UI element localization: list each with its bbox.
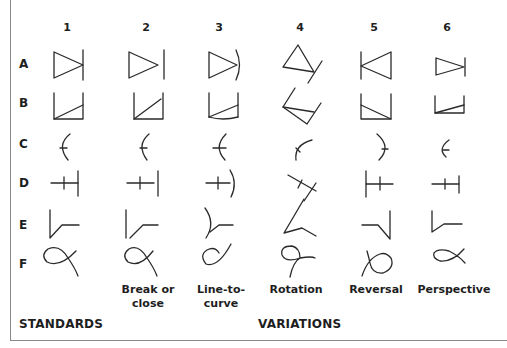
shape-d3 [206, 170, 234, 197]
shape-f4 [282, 246, 315, 277]
shape-f2 [125, 248, 157, 276]
shape-a6 [436, 58, 465, 76]
shape-f1 [44, 248, 78, 276]
shape-b1 [54, 93, 83, 119]
shape-a5 [361, 52, 391, 79]
shape-b5 [361, 94, 391, 119]
shape-e5 [362, 211, 390, 239]
shape-f5 [362, 251, 392, 276]
shape-a3 [209, 50, 240, 80]
shape-c3 [213, 134, 226, 160]
shape-c5 [377, 134, 388, 160]
shape-d1 [51, 171, 78, 196]
shape-e4 [284, 199, 316, 236]
shape-c2 [140, 134, 149, 160]
shape-e2 [126, 210, 158, 238]
shape-e6 [432, 211, 462, 232]
shape-d2 [127, 171, 158, 196]
shape-e1 [50, 210, 79, 238]
shape-b2 [134, 93, 163, 119]
shape-b4 [283, 88, 321, 124]
shape-b6 [435, 96, 464, 113]
shape-f3 [203, 244, 231, 265]
caption-reversal: Reversal [331, 283, 421, 297]
variations-label: VARIATIONS [258, 317, 341, 331]
shape-a1 [54, 50, 83, 80]
shape-d5 [366, 171, 393, 197]
standards-label: STANDARDS [19, 317, 103, 331]
shape-c1 [60, 134, 70, 160]
shape-e3 [205, 208, 233, 238]
shape-b3 [209, 93, 238, 119]
caption-rotation: Rotation [251, 283, 341, 297]
shape-f6 [434, 249, 465, 263]
shape-c6 [442, 140, 449, 157]
caption-perspective: Perspective [409, 283, 499, 297]
shape-d4 [288, 175, 316, 201]
shape-d6 [432, 176, 459, 193]
shape-a2 [129, 50, 164, 79]
shape-a4 [283, 45, 322, 83]
shape-c4 [296, 140, 312, 160]
